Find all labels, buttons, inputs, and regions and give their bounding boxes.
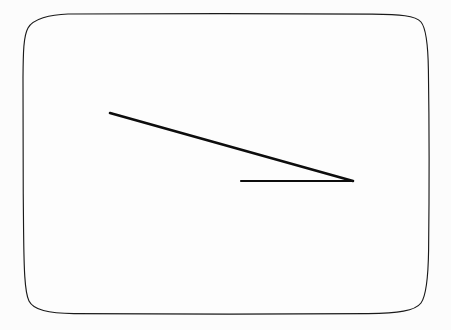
diagram-canvas [0, 0, 451, 330]
angle-figure-svg [0, 0, 451, 330]
rounded-rectangle-frame [23, 14, 429, 314]
